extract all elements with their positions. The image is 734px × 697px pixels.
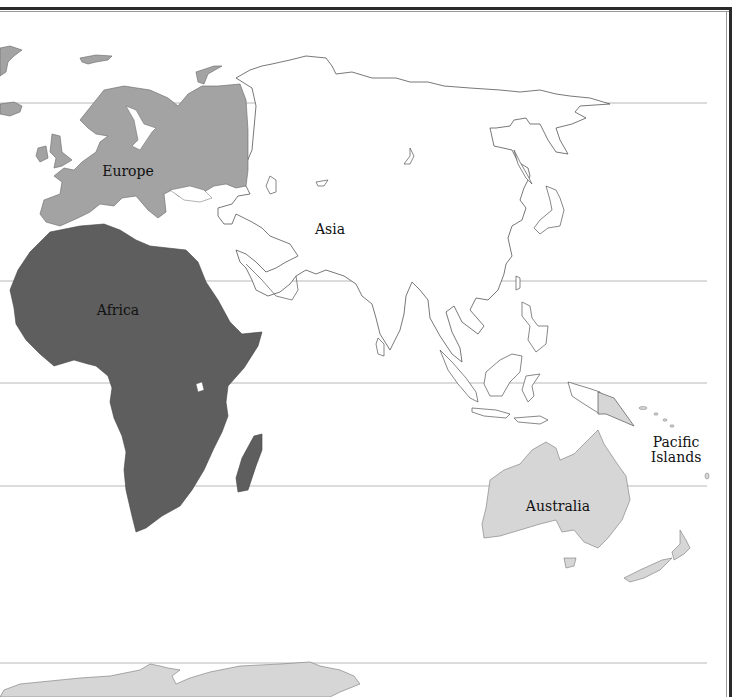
borneo [484, 354, 522, 396]
label-asia: Asia [305, 222, 355, 237]
new-zealand-north [672, 530, 690, 560]
label-australia: Australia [518, 499, 598, 514]
lesser-sunda [514, 416, 548, 424]
japan [534, 186, 564, 234]
uk [50, 134, 72, 168]
label-europe: Europe [98, 164, 158, 179]
new-zealand-south [624, 558, 672, 582]
taiwan [516, 276, 520, 290]
sulawesi [522, 374, 540, 402]
asia-outline [218, 56, 610, 362]
new-guinea-west [568, 382, 600, 414]
australia-shape [482, 430, 630, 548]
java [472, 408, 510, 418]
ireland [36, 146, 48, 162]
world-map [0, 0, 734, 697]
tasmania [564, 558, 576, 568]
philippines [522, 302, 548, 352]
antarctica-shape [0, 662, 360, 697]
new-guinea-east [598, 392, 634, 426]
sri-lanka [376, 338, 384, 356]
label-pacific-line2: Islands [644, 450, 708, 465]
europe-shape [40, 84, 248, 226]
novaya-zemlya [196, 66, 222, 84]
label-africa: Africa [88, 303, 148, 318]
label-pacific-line1: Pacific [644, 435, 708, 450]
madagascar [236, 434, 262, 492]
label-pacific-islands: Pacific Islands [644, 435, 708, 465]
